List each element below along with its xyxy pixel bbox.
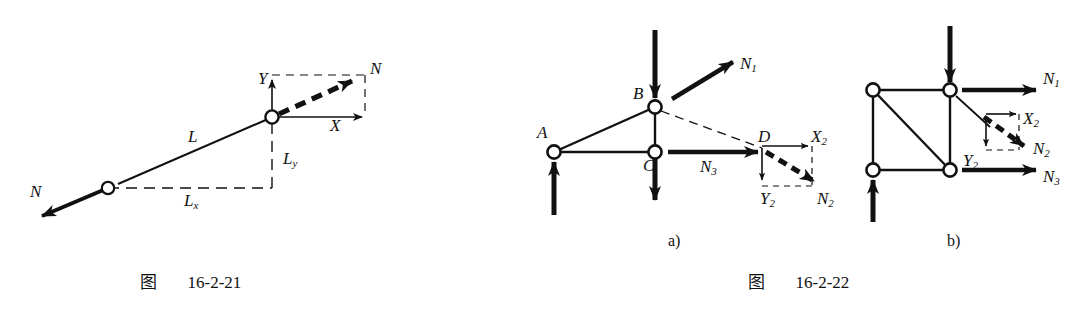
caption-right: 图 16-2-22: [748, 268, 849, 293]
diagram-canvas: [0, 0, 1089, 312]
label-axis-x: X: [330, 117, 340, 134]
caption-right-cjk: 图: [748, 272, 765, 292]
label-force-n-lower: N: [30, 183, 41, 200]
subfigure-label-a: a): [668, 232, 680, 250]
label-projection-ly: Ly: [283, 150, 297, 169]
label-member-length-l: L: [188, 128, 197, 145]
cut-line-bd: [661, 111, 762, 148]
force-vector-n-upper: [279, 81, 352, 114]
label-force-n1-b: N1: [1043, 70, 1060, 89]
force-vector-n-lower: [42, 188, 108, 216]
joint-top-right: [943, 83, 956, 96]
joint-a: [547, 145, 560, 158]
label-component-x2-b: X2: [1023, 110, 1039, 129]
joint-bottom-right: [943, 163, 956, 176]
fig-16-2-22b-group: [866, 26, 1036, 222]
fig-16-2-21-group: [42, 75, 365, 216]
label-axis-y: Y: [258, 70, 267, 87]
label-projection-lx: Lx: [184, 192, 198, 211]
joint-bottom-left: [866, 163, 879, 176]
label-joint-a: A: [537, 124, 547, 141]
caption-left: 图 16-2-21: [140, 268, 241, 293]
joint-top-left: [866, 83, 879, 96]
label-component-y2-b: Y2: [963, 152, 978, 171]
label-force-n3-b: N3: [1043, 168, 1060, 187]
force-vector-n2: [766, 152, 814, 181]
label-component-y2-a: Y2: [760, 190, 775, 209]
caption-left-cjk: 图: [140, 272, 157, 292]
caption-left-number: 16-2-21: [188, 273, 242, 292]
force-vector-n1: [672, 62, 733, 99]
joint-b: [648, 100, 661, 113]
label-component-x2-a: X2: [811, 128, 827, 147]
joint-lower: [102, 182, 114, 194]
label-force-n2-a: N2: [817, 190, 834, 209]
member-diagonal: [873, 90, 950, 170]
label-joint-c: C: [643, 157, 654, 174]
cut-line-b: [956, 96, 990, 127]
label-force-n2-b: N2: [1033, 140, 1050, 159]
subfigure-label-b: b): [947, 232, 960, 250]
label-force-n-upper: N: [370, 60, 381, 77]
label-joint-b: B: [633, 85, 643, 102]
joint-upper: [265, 110, 278, 123]
label-joint-d: D: [758, 128, 770, 145]
member-ab: [554, 107, 655, 152]
label-force-n1-a: N1: [740, 55, 757, 74]
label-force-n3-a: N3: [700, 158, 717, 177]
fig-16-2-22a-group: [547, 30, 814, 215]
figure-sheet: N N L Lx Ly X Y A B C D N1 N2 N3 X2 Y2: [0, 0, 1089, 312]
caption-right-number: 16-2-22: [796, 273, 850, 292]
force-vector-n2-b: [984, 117, 1024, 146]
